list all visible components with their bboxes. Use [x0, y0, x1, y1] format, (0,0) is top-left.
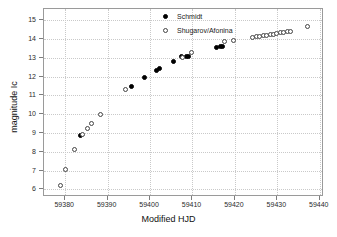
y-axis-title: magnitude Ic — [9, 47, 19, 167]
y-axis-tick — [39, 57, 43, 58]
x-axis-tick — [64, 196, 65, 200]
gridline-vertical — [277, 9, 278, 195]
y-axis-tick — [39, 151, 43, 152]
legend-label: Schmidt — [177, 10, 202, 24]
y-axis-tick — [39, 94, 43, 95]
x-axis-tick — [149, 196, 150, 200]
x-axis-tick-label: 59440 — [309, 201, 328, 208]
gridline-horizontal — [44, 114, 322, 115]
gridline-vertical — [320, 9, 321, 195]
x-axis-tick-label: 59380 — [54, 201, 73, 208]
y-axis-tick-label: 7 — [24, 166, 36, 173]
data-point — [220, 44, 225, 49]
x-axis-title: Modified HJD — [0, 214, 337, 224]
x-axis-tick-label: 59420 — [224, 201, 243, 208]
data-point — [189, 50, 194, 55]
data-point — [157, 66, 162, 71]
y-axis-tick-label: 12 — [24, 72, 36, 79]
data-point — [58, 183, 63, 188]
y-axis-tick-label: 15 — [24, 16, 36, 23]
x-axis-tick-label: 59430 — [267, 201, 286, 208]
x-axis-tick — [107, 196, 108, 200]
y-axis-tick-label: 6 — [24, 185, 36, 192]
x-axis-tick-label: 59410 — [182, 201, 201, 208]
gridline-horizontal — [44, 152, 322, 153]
x-axis-tick — [191, 196, 192, 200]
data-point — [129, 84, 134, 89]
legend-label: Shugarov/Afonina — [177, 24, 233, 38]
data-point — [85, 126, 90, 131]
data-point — [142, 75, 147, 80]
gridline-horizontal — [44, 39, 322, 40]
data-point — [222, 39, 227, 44]
y-axis-tick-label: 10 — [24, 110, 36, 117]
y-axis-tick — [39, 76, 43, 77]
data-point — [98, 112, 103, 117]
data-point — [305, 24, 310, 29]
y-axis-tick-label: 11 — [24, 91, 36, 98]
legend-item-shugarov-afonina: Shugarov/Afonina — [163, 24, 275, 38]
x-axis-tick — [319, 196, 320, 200]
x-axis-tick-label: 59400 — [139, 201, 158, 208]
data-point — [171, 59, 176, 64]
data-point — [72, 147, 77, 152]
legend: Schmidt Shugarov/Afonina — [163, 10, 275, 38]
filled-circle-icon — [163, 14, 168, 19]
open-circle-icon — [163, 28, 168, 33]
gridline-horizontal — [44, 171, 322, 172]
data-point — [123, 87, 128, 92]
y-axis-tick-label: 9 — [24, 129, 36, 136]
y-axis-tick — [39, 188, 43, 189]
y-axis-tick-label: 14 — [24, 35, 36, 42]
y-axis-tick — [39, 132, 43, 133]
y-axis-tick-label: 8 — [24, 147, 36, 154]
gridline-vertical — [150, 9, 151, 195]
legend-item-schmidt: Schmidt — [163, 10, 275, 24]
x-axis-tick — [234, 196, 235, 200]
gridline-horizontal — [44, 77, 322, 78]
data-point — [231, 38, 236, 43]
y-axis-tick — [39, 38, 43, 39]
data-point — [63, 167, 68, 172]
gridline-horizontal — [44, 95, 322, 96]
data-point — [180, 55, 185, 60]
y-axis-tick — [39, 19, 43, 20]
data-point — [80, 132, 85, 137]
x-axis-tick-label: 59390 — [97, 201, 116, 208]
gridline-vertical — [108, 9, 109, 195]
gridline-horizontal — [44, 189, 322, 190]
data-point — [89, 121, 94, 126]
data-point — [288, 29, 293, 34]
light-curve-figure: Schmidt Shugarov/Afonina Modified HJD ma… — [0, 0, 337, 237]
y-axis-tick — [39, 170, 43, 171]
x-axis-tick — [276, 196, 277, 200]
y-axis-tick — [39, 113, 43, 114]
y-axis-tick-label: 13 — [24, 53, 36, 60]
gridline-horizontal — [44, 133, 322, 134]
